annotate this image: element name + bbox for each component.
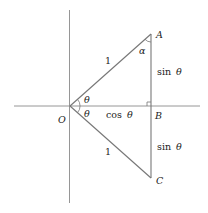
cos-theta-label: cos θ <box>106 109 133 120</box>
unit-circle-triangle-diagram: A B C O 1 1 α θ θ sin θ sin θ cos θ <box>0 0 208 213</box>
point-label-A: A <box>155 29 163 40</box>
sin-theta-bottom-label: sin θ <box>157 141 182 152</box>
sin-var: θ <box>176 66 182 77</box>
cos-var: θ <box>127 109 133 120</box>
sin-var: θ <box>176 141 182 152</box>
alpha-label: α <box>139 45 146 56</box>
theta-bottom-label: θ <box>84 108 90 119</box>
cos-fn: cos <box>106 109 122 120</box>
theta-top-label: θ <box>84 94 90 105</box>
point-label-O: O <box>58 114 66 125</box>
diagram-svg: A B C O 1 1 α θ θ sin θ sin θ cos θ <box>0 0 208 213</box>
sin-fn: sin <box>157 141 171 152</box>
sin-theta-top-label: sin θ <box>157 66 182 77</box>
alpha-arc <box>145 39 151 42</box>
point-label-C: C <box>156 175 164 186</box>
hypotenuse-bottom-label: 1 <box>105 146 111 157</box>
sin-fn: sin <box>157 66 171 77</box>
hypotenuse-top-label: 1 <box>105 55 111 66</box>
right-angle-marker <box>147 102 151 106</box>
point-label-B: B <box>154 110 162 121</box>
